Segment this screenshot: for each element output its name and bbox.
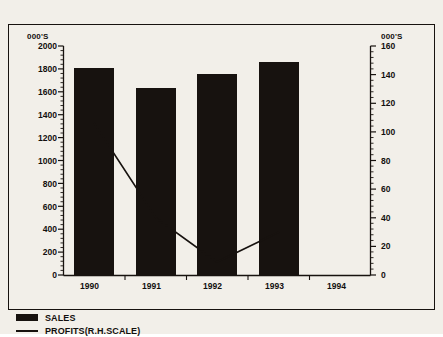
right-tick-0: 0 (381, 270, 386, 280)
right-tick-60: 60 (381, 184, 390, 194)
left-tick-1800: 1800 (38, 64, 57, 74)
right-tick-100: 100 (381, 127, 395, 137)
right-tick-120: 120 (381, 98, 395, 108)
legend-label-sales: SALES (45, 313, 76, 323)
left-axis-unit-label: 000'S (27, 32, 49, 41)
x-tick-1990: 1990 (80, 281, 99, 291)
bar-1993 (259, 62, 299, 275)
right-tick-40: 40 (381, 213, 390, 223)
x-tick-1993: 1993 (265, 281, 284, 291)
bar-1991 (136, 88, 176, 275)
x-tick-1994: 1994 (327, 281, 346, 291)
right-tick-140: 140 (381, 70, 395, 80)
left-axis-major-ticks (58, 46, 64, 275)
left-tick-1600: 1600 (38, 87, 57, 97)
x-tick-1992: 1992 (203, 281, 222, 291)
x-axis-ticks (125, 276, 310, 281)
left-tick-1400: 1400 (38, 110, 57, 120)
right-axis-unit-label: 000'S (381, 32, 403, 41)
legend-bar-swatch-icon (16, 314, 38, 321)
right-tick-80: 80 (381, 156, 390, 166)
left-tick-0: 0 (52, 270, 57, 280)
left-tick-1000: 1000 (38, 156, 57, 166)
left-tick-600: 600 (43, 202, 57, 212)
left-tick-200: 200 (43, 247, 57, 257)
legend-item-sales: SALES (16, 311, 140, 324)
left-tick-2000: 2000 (38, 41, 57, 51)
legend-item-profits: PROFITS(R.H.SCALE) (16, 324, 140, 337)
legend-line-swatch-icon (16, 327, 38, 334)
x-tick-1991: 1991 (142, 281, 161, 291)
bar-1990 (74, 68, 114, 275)
left-tick-400: 400 (43, 224, 57, 234)
chart-legend: SALES PROFITS(R.H.SCALE) (16, 311, 140, 337)
left-tick-800: 800 (43, 179, 57, 189)
line-series-profits (94, 123, 279, 262)
left-tick-1200: 1200 (38, 133, 57, 143)
right-tick-20: 20 (381, 241, 390, 251)
bar-1992 (197, 74, 237, 275)
legend-label-profits: PROFITS(R.H.SCALE) (45, 326, 140, 336)
right-tick-160: 160 (381, 41, 395, 51)
bar-series-sales (74, 62, 299, 275)
